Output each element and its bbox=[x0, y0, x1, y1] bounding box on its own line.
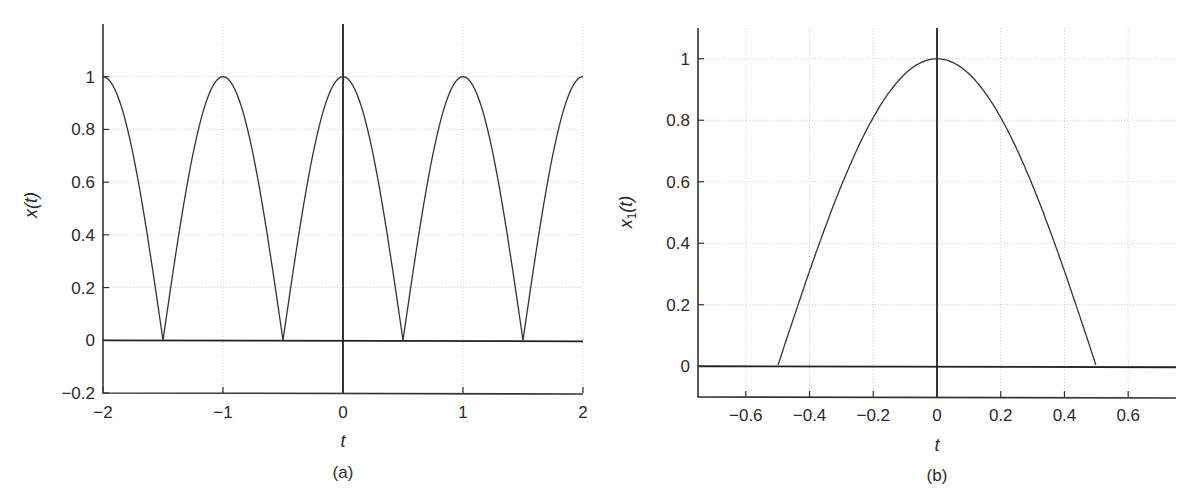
x-tick-label: 0 bbox=[932, 406, 941, 425]
zero-axes bbox=[698, 28, 1176, 397]
y-tick-label: 1 bbox=[86, 68, 95, 87]
horizontal-zero-axis bbox=[698, 366, 1176, 367]
y-tick-label: 0.4 bbox=[71, 226, 95, 245]
y-label-tail: (t) bbox=[21, 192, 41, 209]
y-tick-label: 0.6 bbox=[71, 173, 95, 192]
x-tick-label: 1 bbox=[458, 403, 467, 422]
x-tick-label: −1 bbox=[213, 403, 232, 422]
panel-caption: (b) bbox=[927, 466, 948, 485]
x-axis-label: t bbox=[340, 431, 346, 451]
y-tick-label: 1 bbox=[681, 50, 690, 69]
chart-panel-a: −2−1012−0.200.20.40.60.81 t x(t) (a) bbox=[21, 24, 588, 482]
x-tick-label: 0.2 bbox=[989, 406, 1013, 425]
x-tick-label: −0.6 bbox=[729, 406, 763, 425]
tick-labels: −0.6−0.4−0.200.20.40.600.20.40.60.81 bbox=[666, 50, 1140, 425]
y-tick-label: 0 bbox=[86, 331, 95, 350]
y-axis-label: x(t) bbox=[21, 192, 41, 219]
x-tick-label: −2 bbox=[93, 403, 112, 422]
y-tick-label: 0.8 bbox=[666, 111, 690, 130]
x-tick-label: −0.4 bbox=[793, 406, 827, 425]
x-tick-label: 0 bbox=[338, 403, 347, 422]
panel-caption: (a) bbox=[333, 463, 354, 482]
x-axis-label: t bbox=[934, 435, 940, 455]
x-tick-label: −0.2 bbox=[856, 406, 890, 425]
y-tick-label: 0.2 bbox=[666, 296, 690, 315]
y-axis-label: x1(t) bbox=[616, 196, 639, 230]
x-tick-label: 2 bbox=[578, 403, 587, 422]
x-tick-label: 0.6 bbox=[1116, 406, 1140, 425]
x-tick-label: 0.4 bbox=[1053, 406, 1077, 425]
chart-panel-b: −0.6−0.4−0.200.20.40.600.20.40.60.81 t x… bbox=[616, 28, 1176, 485]
horizontal-zero-axis bbox=[103, 340, 583, 341]
y-label-tail: (t) bbox=[616, 196, 636, 213]
y-tick-label: 0.8 bbox=[71, 120, 95, 139]
y-tick-label: 0 bbox=[681, 357, 690, 376]
y-tick-label: −0.2 bbox=[61, 384, 95, 403]
y-tick-label: 0.4 bbox=[666, 234, 690, 253]
y-tick-label: 0.2 bbox=[71, 279, 95, 298]
figure: −2−1012−0.200.20.40.60.81 t x(t) (a) −0.… bbox=[0, 0, 1202, 501]
zero-axes bbox=[103, 24, 583, 393]
y-tick-label: 0.6 bbox=[666, 173, 690, 192]
